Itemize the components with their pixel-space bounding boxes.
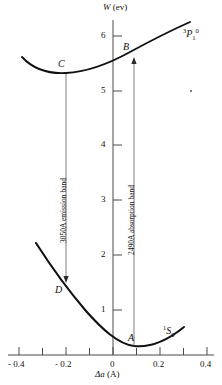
emission-band-label: 3050A emission band bbox=[60, 178, 68, 243]
plot-canvas bbox=[0, 0, 222, 385]
y-tick-label-1: 1 bbox=[101, 305, 106, 314]
potential-energy-curve-figure: W (ev) Δa (A) 1 2 3 4 5 6 - 0.4 - 0.2 0 … bbox=[0, 0, 222, 385]
term-symbol-ground-state: 1S0 bbox=[163, 325, 175, 339]
term-j-upper: 1 bbox=[192, 34, 195, 41]
scan-speck bbox=[190, 90, 192, 92]
y-axis-title: W (ev) bbox=[103, 3, 127, 12]
point-label-c: C bbox=[58, 59, 65, 69]
x-tick-label-neg-0-2: - 0.2 bbox=[55, 360, 72, 369]
term-parity-upper: 0 bbox=[196, 27, 199, 34]
y-axis-ticks bbox=[113, 36, 122, 310]
point-label-a: A bbox=[128, 333, 134, 343]
y-tick-label-4: 4 bbox=[101, 140, 106, 149]
x-tick-label-0-4: 0.4 bbox=[200, 360, 211, 369]
x-axis-title: Δa (A) bbox=[95, 370, 120, 379]
y-tick-label-3: 3 bbox=[101, 195, 106, 204]
curve-excited-state bbox=[22, 22, 190, 73]
x-tick-label-0: 0 bbox=[110, 360, 115, 369]
absorption-band-label: 2490A absorption band bbox=[128, 185, 136, 255]
point-label-b: B bbox=[123, 42, 129, 52]
y-tick-label-2: 2 bbox=[101, 250, 106, 259]
y-tick-label-5: 5 bbox=[101, 86, 106, 95]
y-tick-label-6: 6 bbox=[101, 31, 106, 40]
term-symbol-excited-state: 3P10 bbox=[183, 28, 199, 42]
point-label-d: D bbox=[55, 285, 62, 295]
x-tick-label-0-2: 0.2 bbox=[153, 360, 164, 369]
x-tick-label-neg-0-4: - 0.4 bbox=[8, 360, 25, 369]
term-j-lower: 0 bbox=[171, 331, 174, 338]
